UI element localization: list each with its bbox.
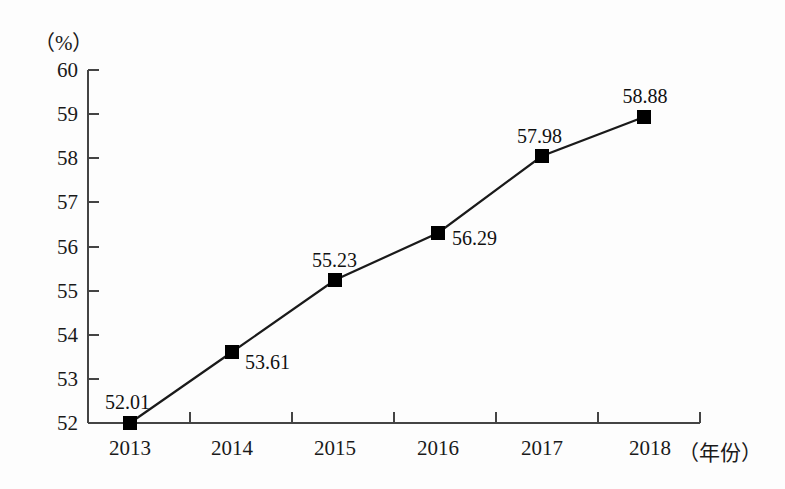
x-axis-ticks (190, 412, 598, 423)
y-tick-label-60: 60 (36, 58, 78, 83)
data-label-2014: 53.61 (245, 351, 290, 374)
data-label-2018: 58.88 (623, 85, 668, 108)
data-point-marker (123, 416, 137, 430)
data-markers (123, 110, 651, 430)
data-line (130, 117, 644, 423)
data-point-marker (328, 273, 342, 287)
y-tick-label-57: 57 (36, 190, 78, 215)
x-tick-label-2014: 2014 (211, 436, 253, 461)
x-tick-label-2015: 2015 (314, 436, 356, 461)
data-label-2013: 52.01 (105, 391, 150, 414)
x-tick-label-2017: 2017 (521, 436, 563, 461)
y-tick-label-56: 56 (36, 235, 78, 260)
line-chart: （%） (0, 0, 785, 489)
axis-lines (88, 70, 700, 423)
data-point-marker (225, 345, 239, 359)
x-axis-name: （年份） (678, 436, 762, 466)
data-point-marker (637, 110, 651, 124)
y-tick-label-53: 53 (36, 367, 78, 392)
y-tick-label-59: 59 (36, 102, 78, 127)
x-tick-label-2016: 2016 (417, 436, 459, 461)
x-tick-label-2013: 2013 (109, 436, 151, 461)
data-point-marker (431, 226, 445, 240)
data-label-2017: 57.98 (517, 125, 562, 148)
y-tick-label-58: 58 (36, 146, 78, 171)
data-label-2016: 56.29 (452, 227, 497, 250)
y-tick-label-52: 52 (36, 411, 78, 436)
plot-area (0, 0, 785, 489)
data-point-marker (535, 149, 549, 163)
data-label-2015: 55.23 (312, 249, 357, 272)
y-axis-ticks (88, 114, 99, 379)
x-tick-label-2018: 2018 (629, 436, 671, 461)
y-tick-label-54: 54 (36, 323, 78, 348)
y-tick-label-55: 55 (36, 279, 78, 304)
